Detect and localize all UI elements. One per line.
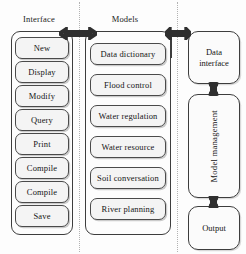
models-item-water-regulation[interactable]: Water regulation [90,105,166,127]
interface-item-compile-2[interactable]: Compile [15,181,69,203]
interface-item-modify[interactable]: Modify [15,85,69,107]
system-architecture-diagram: Interface Models New Display Modify Quer… [0,0,246,254]
interface-item-display[interactable]: Display [15,61,69,83]
data-interface-model-management-double-arrow [207,82,220,96]
models-item-soil-conversation[interactable]: Soil conversation [90,167,166,189]
models-item-river-planning[interactable]: River planning [90,198,166,220]
data-interface-box[interactable]: Data interface [188,31,240,84]
interface-item-compile-1[interactable]: Compile [15,157,69,179]
models-item-water-resource[interactable]: Water resource [90,136,166,158]
model-management-box[interactable]: Model management [188,94,240,198]
interface-item-query[interactable]: Query [15,109,69,131]
output-box[interactable]: Output [188,206,240,250]
interface-item-new[interactable]: New [15,37,69,59]
model-management-label: Model management [209,110,220,183]
interface-item-save[interactable]: Save [15,205,69,227]
model-management-output-double-arrow [207,196,220,208]
interface-column-caption: Interface [8,14,70,24]
output-label: Output [202,223,226,234]
models-item-data-dictionary[interactable]: Data dictionary [90,43,166,65]
data-interface-label-line2: interface [199,58,229,69]
models-column-caption: Models [90,14,160,24]
interface-item-print[interactable]: Print [15,133,69,155]
models-item-flood-control[interactable]: Flood control [90,74,166,96]
models-data-interface-double-arrow [165,27,191,40]
data-interface-label-line1: Data [206,47,222,58]
interface-models-double-arrow [59,27,97,40]
